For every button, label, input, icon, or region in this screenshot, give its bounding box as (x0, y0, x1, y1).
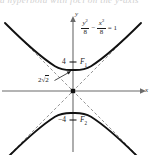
equation-denominator-y: 8 (82, 29, 89, 37)
equation-equals-one: = 1 (108, 24, 117, 32)
hyperbola-equation: y2 8 − x2 8 = 1 (80, 19, 118, 36)
origin-point (71, 89, 75, 93)
equation-minus-operator: − (91, 24, 95, 32)
equation-numerator-x: x2 (97, 19, 105, 28)
equation-fraction-x: x2 8 (97, 19, 105, 36)
y-axis-label: y (75, 11, 78, 18)
focus-label-lower: F2 (80, 116, 87, 126)
distance-label-vertex: 2√2 (38, 77, 49, 84)
equation-numerator-y: y2 (81, 19, 89, 28)
hyperbola-plot (0, 0, 151, 155)
tick-label-lower: −4 (58, 116, 66, 124)
tick-label-upper: 4 (62, 58, 66, 66)
hyperbola-figure: a hyperbola with foci on the y-axis y x … (0, 0, 151, 155)
focus-label-upper: F1 (80, 58, 87, 68)
x-axis-label: x (145, 87, 148, 94)
equation-denominator-x: 8 (98, 29, 105, 37)
equation-fraction-y: y2 8 (81, 19, 89, 36)
